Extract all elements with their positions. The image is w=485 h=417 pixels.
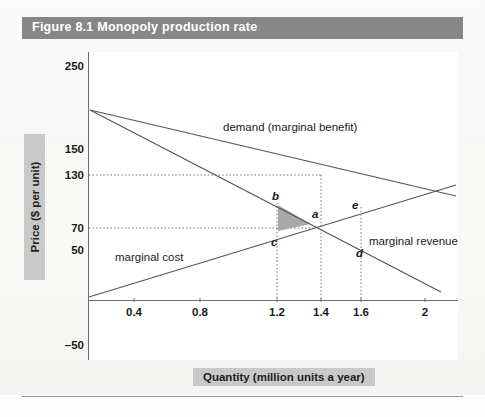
- x-axis-title: Quantity (million units a year): [203, 371, 365, 383]
- demand-curve-label: demand (marginal benefit): [223, 121, 357, 133]
- x-tick-1-6: 1.6: [353, 306, 369, 318]
- point-label-e: e: [352, 199, 358, 211]
- y-axis-line: [88, 52, 89, 360]
- x-tick-0-4: 0.4: [126, 306, 142, 318]
- x-tick-2: 2: [422, 306, 428, 318]
- figure-header-bar: Figure 8.1 Monopoly production rate: [22, 17, 463, 39]
- y-tick-50: 50: [44, 244, 84, 256]
- point-label-d: d: [356, 247, 363, 259]
- y-axis-title: Price ($ per unit): [29, 162, 41, 253]
- y-tick-250: 250: [44, 60, 84, 72]
- figure-caption: [22, 404, 462, 417]
- marginal-cost-label: marginal cost: [115, 251, 183, 263]
- x-tick-1-2: 1.2: [269, 306, 285, 318]
- point-label-a: a: [312, 208, 318, 220]
- x-axis-line: [88, 300, 458, 301]
- y-axis-title-box: Price ($ per unit): [24, 134, 45, 280]
- figure-root: Figure 8.1 Monopoly production rate: [0, 0, 485, 417]
- y-tick-70: 70: [44, 222, 84, 234]
- y-axis-tick-labels: 250 150 130 70 50 –50: [40, 0, 84, 417]
- x-axis-title-box: Quantity (million units a year): [193, 368, 375, 386]
- marginal-revenue-label: marginal revenue: [369, 235, 458, 247]
- bottom-divider: [22, 396, 463, 397]
- y-tick-minus-50: –50: [44, 339, 84, 351]
- point-label-b: b: [272, 190, 279, 202]
- x-tick-1-4: 1.4: [313, 306, 329, 318]
- y-tick-150: 150: [44, 143, 84, 155]
- y-tick-130: 130: [44, 169, 84, 181]
- x-tick-0-8: 0.8: [192, 306, 208, 318]
- point-label-c: c: [271, 236, 277, 248]
